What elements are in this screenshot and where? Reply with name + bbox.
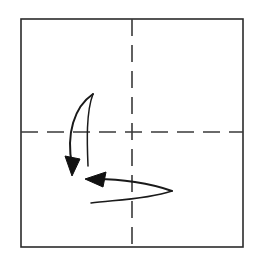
fold-diagram-container: Origami fold step diagram [0,0,258,270]
origami-fold-diagram: Origami fold step diagram [0,0,258,270]
